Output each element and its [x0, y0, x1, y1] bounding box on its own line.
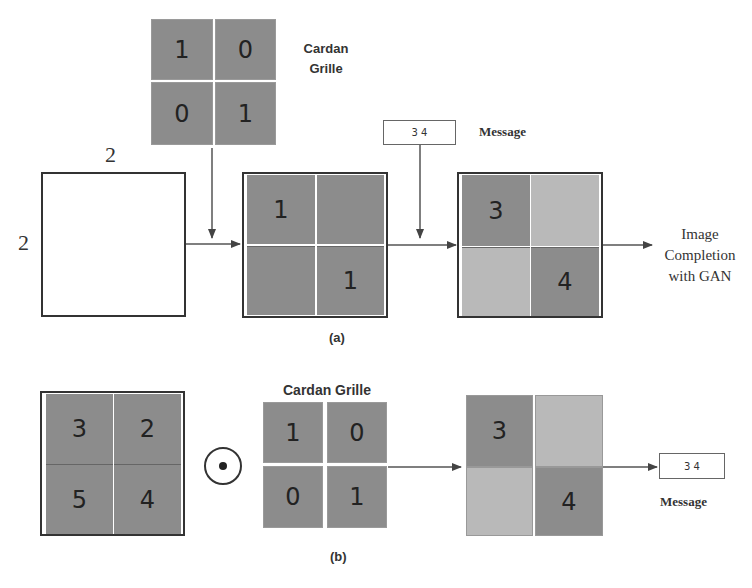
- grille-cell: 1: [327, 466, 387, 528]
- label-line: Grille: [296, 59, 356, 79]
- masked-grid-frame: 1 1: [242, 172, 388, 318]
- message-label-b: Message: [660, 494, 707, 510]
- message-label-a: Message: [479, 124, 526, 140]
- input-cell: 3: [46, 394, 113, 464]
- image-completion-label: Image Completion with GAN: [652, 224, 748, 287]
- stego-cell: [531, 175, 599, 246]
- width-label: 2: [105, 142, 116, 168]
- input-cell: 5: [46, 464, 113, 534]
- circled-dot-operator-icon: [204, 447, 242, 485]
- caption-b: (b): [330, 549, 347, 564]
- caption-a: (a): [329, 330, 345, 345]
- input-grid-frame: 3 2 5 4: [40, 391, 185, 536]
- input-cell: 2: [114, 394, 181, 464]
- message-box-b: 3 4: [659, 453, 725, 479]
- cardan-grille-label: Cardan Grille: [296, 39, 356, 79]
- empty-image-box: [41, 172, 186, 317]
- input-cell: 4: [114, 464, 181, 534]
- extracted-cell: 4: [535, 467, 603, 536]
- masked-cell: 1: [317, 246, 384, 315]
- grille-cell: 0: [215, 19, 276, 80]
- stego-cell: 4: [531, 247, 599, 316]
- cardan-grille-label-b: Cardan Grille: [283, 382, 371, 398]
- grille-cell: 1: [263, 402, 323, 463]
- label-line: Completion: [652, 245, 748, 266]
- label-line: Image: [652, 224, 748, 245]
- label-line: Cardan: [296, 39, 356, 59]
- masked-cell: [317, 175, 384, 244]
- stego-grid-frame: 3 4: [457, 172, 603, 318]
- message-box-a: 3 4: [383, 120, 456, 145]
- height-label: 2: [18, 230, 29, 256]
- masked-cell: [247, 246, 315, 315]
- masked-cell: 1: [247, 175, 315, 244]
- grille-cell: 0: [263, 466, 323, 528]
- label-line: with GAN: [652, 266, 748, 287]
- grille-cell: 0: [327, 402, 387, 463]
- grille-cell: 1: [151, 19, 213, 80]
- extracted-cell: 3: [466, 395, 533, 467]
- extracted-cell: [535, 395, 603, 467]
- grille-cell: 0: [151, 82, 213, 145]
- stego-cell: 3: [462, 175, 530, 246]
- grille-cell: 1: [215, 82, 276, 145]
- extracted-cell: [466, 467, 533, 536]
- stego-cell: [462, 247, 530, 316]
